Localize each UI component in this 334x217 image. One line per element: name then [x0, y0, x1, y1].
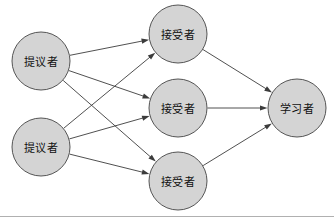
node-proposer-1[interactable]: 提议者: [12, 32, 70, 90]
node-circle-proposer[interactable]: [12, 32, 70, 90]
diagram-canvas: 提议者提议者接受者接受者接受者学习者: [0, 0, 334, 217]
node-acceptor-2[interactable]: 接受者: [149, 79, 207, 137]
arrow-head-icon: [142, 94, 150, 99]
nodes-layer: 提议者提议者接受者接受者接受者学习者: [12, 5, 326, 210]
arrow-head-icon: [264, 86, 272, 92]
arrow-head-icon: [141, 170, 149, 175]
edge-line: [203, 127, 267, 166]
edge-line: [70, 154, 144, 172]
arrow-head-icon: [142, 116, 150, 121]
edge-acceptor-2-to-learner-1: [208, 105, 268, 110]
edge-proposer-1-to-acceptor-1: [70, 39, 149, 56]
edge-line: [69, 118, 143, 139]
node-acceptor-3[interactable]: 接受者: [149, 152, 207, 210]
edge-proposer-1-to-acceptor-2: [69, 71, 150, 99]
edge-line: [203, 50, 267, 90]
diagram-svg: 提议者提议者接受者接受者接受者学习者: [0, 0, 334, 217]
node-circle-acceptor[interactable]: [149, 5, 207, 63]
node-acceptor-1[interactable]: 接受者: [149, 5, 207, 63]
node-learner-1[interactable]: 学习者: [268, 79, 326, 137]
node-circle-acceptor[interactable]: [149, 152, 207, 210]
edge-proposer-1-to-acceptor-3: [63, 80, 156, 161]
arrow-head-icon: [264, 123, 272, 129]
arrow-head-icon: [260, 105, 268, 110]
node-circle-proposer[interactable]: [12, 118, 70, 176]
edge-proposer-2-to-acceptor-3: [70, 154, 150, 175]
node-circle-learner[interactable]: [268, 79, 326, 137]
arrow-head-icon: [141, 39, 149, 44]
edge-acceptor-3-to-learner-1: [203, 123, 272, 165]
node-circle-acceptor[interactable]: [149, 79, 207, 137]
node-proposer-2[interactable]: 提议者: [12, 118, 70, 176]
edge-line: [70, 41, 143, 55]
edge-proposer-2-to-acceptor-1: [64, 53, 155, 128]
edge-acceptor-1-to-learner-1: [203, 50, 272, 93]
edge-proposer-2-to-acceptor-2: [69, 116, 149, 139]
